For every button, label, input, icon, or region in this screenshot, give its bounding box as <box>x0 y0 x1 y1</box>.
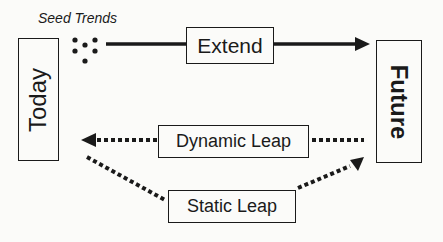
static-line-left <box>87 157 165 200</box>
future-label: Future <box>385 64 413 139</box>
today-node: Today <box>18 38 59 161</box>
extend-arrowhead-icon <box>355 37 370 51</box>
extend-node: Extend <box>186 27 274 64</box>
seed-trends-label: Seed Trends <box>38 10 117 26</box>
static-line-right <box>298 166 350 188</box>
today-label: Today <box>25 67 53 131</box>
dynamic-leap-node: Dynamic Leap <box>158 125 309 158</box>
strategy-diagram: Seed Trends Today Future Extend Dynamic … <box>0 0 443 242</box>
static-arrowhead-icon <box>350 157 364 171</box>
seed-dots-icon <box>72 37 97 63</box>
dynamic-arrowhead-icon <box>81 133 96 147</box>
static-leap-node: Static Leap <box>168 190 296 223</box>
future-node: Future <box>376 40 422 163</box>
